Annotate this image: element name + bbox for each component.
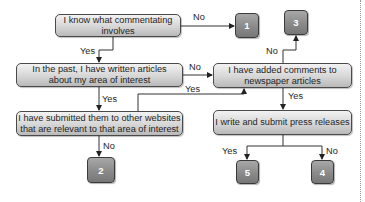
edge-label-no: No: [193, 12, 205, 22]
edge-label-yes: Yes: [288, 91, 303, 101]
edge-label-yes: Yes: [102, 94, 117, 104]
result-3: 3: [284, 10, 308, 35]
result-2: 2: [87, 157, 115, 183]
question-text: I know what commentating involves: [56, 15, 180, 37]
result-5: 5: [236, 160, 259, 184]
edge-label-yes: Yes: [80, 46, 95, 56]
question-know-commentating: I know what commentating involves: [55, 14, 181, 37]
edge-label-no: No: [189, 62, 201, 72]
edge-label-no: No: [266, 46, 278, 56]
question-written-articles: In the past, I have written articles abo…: [16, 63, 183, 87]
edge-label-no: No: [326, 146, 338, 156]
question-press-releases: I write and submit press releases: [213, 110, 352, 135]
result-4: 4: [311, 160, 334, 184]
edge-label-yes: Yes: [222, 146, 237, 156]
edge-label-no: No: [103, 141, 115, 151]
result-1: 1: [235, 13, 259, 38]
edge-label-yes: Yes: [185, 84, 200, 94]
question-submitted-websites: I have submitted them to other websites …: [16, 111, 183, 136]
dotted-divider: [360, 0, 361, 202]
question-added-comments: I have added comments to newspaper artic…: [213, 63, 352, 88]
